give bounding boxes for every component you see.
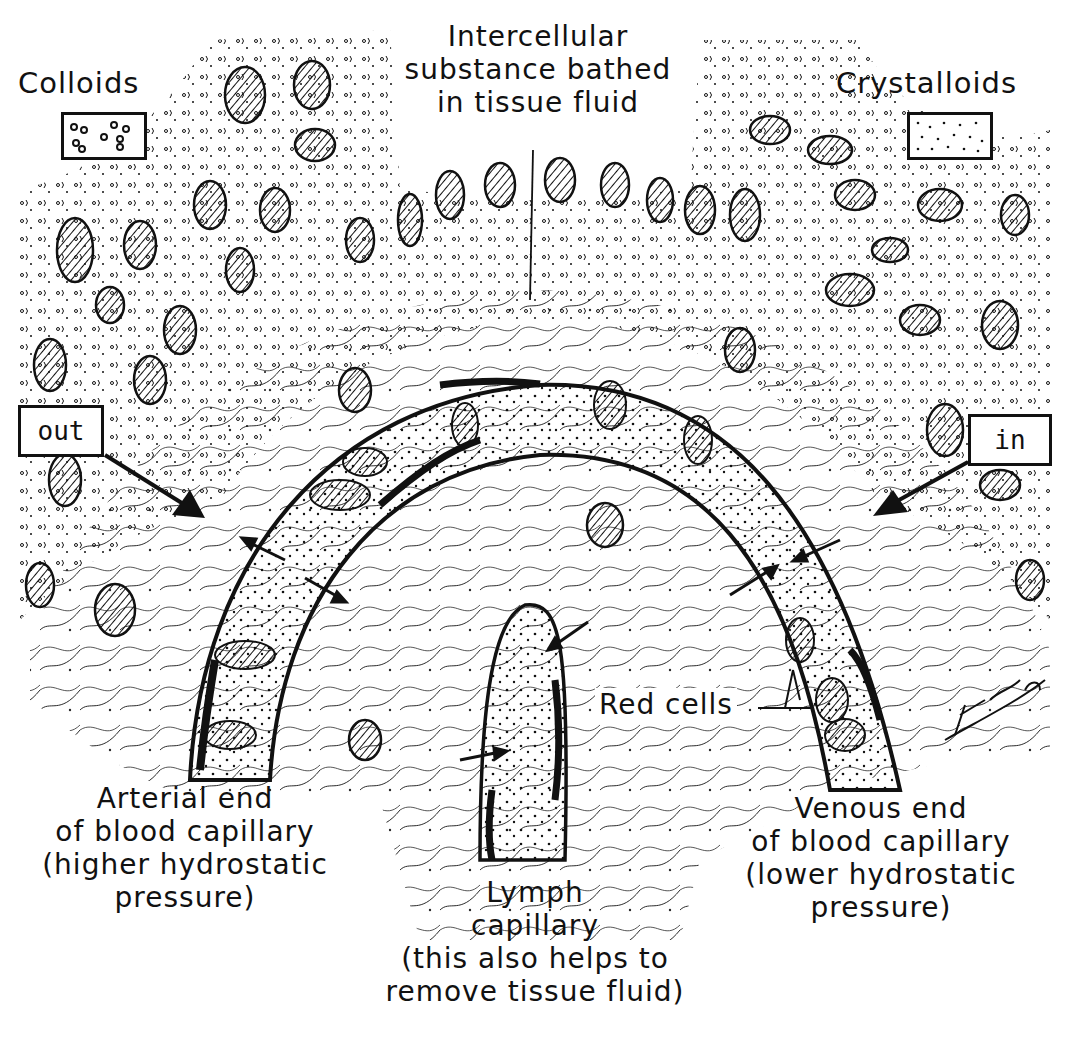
crystalloids-legend-symbol <box>907 112 993 160</box>
in-label: in <box>968 414 1052 466</box>
crystalloid-dots-icon <box>910 115 990 157</box>
venous-end-label: Venous end of blood capillary (lower hyd… <box>700 792 1062 924</box>
out-label: out <box>18 405 104 457</box>
colloids-label: Colloids <box>18 66 139 100</box>
red-cells-label: Red cells <box>595 688 737 721</box>
lymph-capillary-label: Lymph capillary (this also helps to remo… <box>370 876 700 1008</box>
intercellular-substance-label: Intercellular substance bathed in tissue… <box>378 20 698 119</box>
colloids-legend-symbol <box>61 112 147 160</box>
arterial-end-label: Arterial end of blood capillary (higher … <box>10 782 360 914</box>
colloid-circles-icon <box>64 115 144 157</box>
crystalloids-label: Crystalloids <box>836 66 1017 100</box>
